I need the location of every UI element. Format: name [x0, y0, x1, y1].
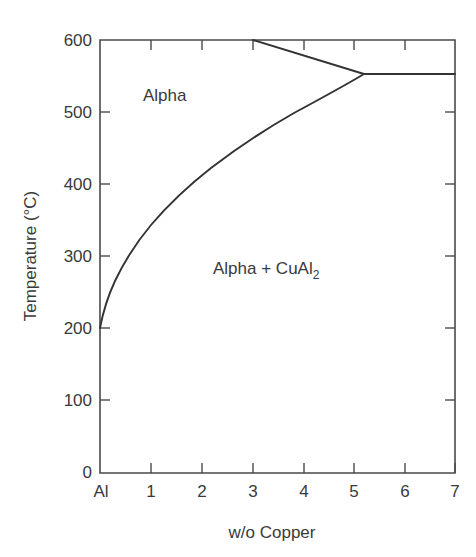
- x-tick-label-6: 6: [400, 482, 409, 501]
- x-axis-title: w/o Copper: [228, 523, 316, 542]
- x-tick-label-5: 5: [349, 482, 358, 501]
- x-tick-label-7: 7: [450, 482, 459, 501]
- x-tick-label-1: 1: [146, 482, 155, 501]
- region-label-alpha: Alpha: [143, 86, 187, 105]
- y-tick-label-300: 300: [64, 247, 92, 266]
- y-tick-label-500: 500: [64, 103, 92, 122]
- y-tick-label-100: 100: [64, 391, 92, 410]
- y-tick-label-200: 200: [64, 319, 92, 338]
- phase-diagram-figure: 600 500 400 300 200 100 0 Al 1 2 3 4 5 6…: [0, 0, 476, 557]
- x-tick-label-2: 2: [197, 482, 206, 501]
- x-tick-label-4: 4: [299, 482, 308, 501]
- y-tick-label-600: 600: [64, 31, 92, 50]
- region-label-cual2-subscript: 2: [313, 268, 320, 282]
- region-label-alpha-cual2-main: Alpha + CuAl: [213, 259, 313, 278]
- x-tick-label-3: 3: [248, 482, 257, 501]
- x-tick-label-al: Al: [93, 482, 108, 501]
- y-tick-label-0: 0: [83, 463, 92, 482]
- phase-diagram-svg: 600 500 400 300 200 100 0 Al 1 2 3 4 5 6…: [0, 0, 476, 557]
- y-tick-label-400: 400: [64, 175, 92, 194]
- y-axis-title: Temperature (°C): [21, 191, 40, 322]
